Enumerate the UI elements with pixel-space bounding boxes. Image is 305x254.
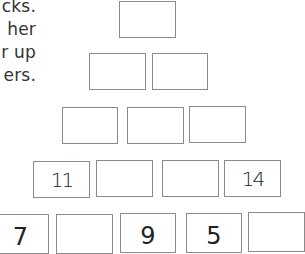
pyramid-box-r5-1[interactable]: 7: [0, 214, 49, 254]
pyramid-box-r4-2[interactable]: [96, 160, 153, 197]
pyramid-box-r4-1[interactable]: 11: [33, 161, 90, 198]
instruction-line-4: ers.: [3, 67, 36, 84]
pyramid-box-r5-2[interactable]: [56, 214, 113, 254]
pyramid-box-r4-4[interactable]: 14: [224, 160, 281, 197]
instruction-line-1: cks.: [2, 0, 36, 15]
instruction-line-3: r up: [1, 44, 36, 61]
pyramid-box-r3-2[interactable]: [127, 107, 184, 144]
pyramid-box-r1-1[interactable]: [119, 1, 176, 38]
pyramid-box-r2-1[interactable]: [89, 53, 146, 90]
pyramid-box-r5-4[interactable]: 5: [186, 213, 242, 253]
pyramid-box-r5-3[interactable]: 9: [120, 213, 176, 253]
pyramid-box-r2-2[interactable]: [152, 53, 208, 90]
pyramid-box-r3-1[interactable]: [62, 107, 118, 144]
pyramid-box-r3-3[interactable]: [189, 106, 246, 143]
pyramid-box-r4-3[interactable]: [162, 160, 219, 197]
instruction-line-2: her: [7, 21, 36, 38]
pyramid-box-r5-5[interactable]: [248, 212, 305, 252]
